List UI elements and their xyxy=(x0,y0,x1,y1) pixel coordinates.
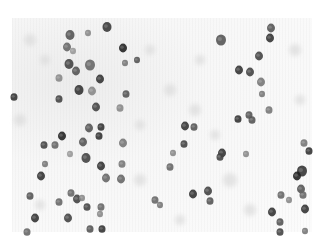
nucleus-highlight xyxy=(86,126,90,129)
nucleus-highlight xyxy=(244,152,247,154)
nucleus-highlight xyxy=(303,229,306,231)
background-specks xyxy=(14,34,305,225)
nucleus-highlight xyxy=(43,162,46,164)
nucleus-highlight xyxy=(67,32,71,36)
background-speck xyxy=(210,130,220,140)
nucleus-highlight xyxy=(80,140,84,143)
nucleus-highlight xyxy=(190,192,194,195)
nucleus-highlight xyxy=(153,198,156,201)
nucleus-highlight xyxy=(250,118,253,121)
nucleus-highlight xyxy=(100,227,103,230)
background-speck xyxy=(195,55,205,65)
nucleus-highlight xyxy=(298,187,302,190)
nucleus-highlight xyxy=(299,168,304,172)
nucleus-highlight xyxy=(218,155,221,158)
nucleus-highlight xyxy=(53,143,56,146)
nucleus-highlight xyxy=(88,227,91,230)
nucleus-highlight xyxy=(256,54,260,57)
nucleus-highlight xyxy=(104,24,108,28)
nucleus-highlight xyxy=(301,193,304,196)
nucleus-highlight xyxy=(269,210,273,213)
nucleus-highlight xyxy=(89,89,93,92)
background-speck xyxy=(14,114,26,126)
nucleus-highlight xyxy=(192,125,195,128)
background-speck xyxy=(189,104,201,116)
nucleus-highlight xyxy=(103,176,107,179)
nucleus-highlight xyxy=(260,92,263,94)
nucleus-highlight xyxy=(279,193,282,196)
background-speck xyxy=(295,95,305,105)
nuclei-layer xyxy=(0,0,323,244)
nucleus-highlight xyxy=(135,58,138,60)
nucleus-highlight xyxy=(307,149,310,152)
nucleus-highlight xyxy=(267,36,271,39)
nucleus-highlight xyxy=(168,165,171,168)
nucleus-highlight xyxy=(85,205,88,208)
nucleus-highlight xyxy=(120,162,123,165)
nucleus-highlight xyxy=(302,141,305,144)
nucleus-highlight xyxy=(87,62,92,66)
nucleus-highlight xyxy=(71,49,74,51)
background-speck xyxy=(223,173,237,187)
nucleus-highlight xyxy=(182,124,186,127)
nucleus-highlight xyxy=(294,174,298,177)
nucleus-highlight xyxy=(25,230,28,233)
background-speck xyxy=(175,215,185,225)
background-speck xyxy=(40,55,50,65)
nucleus-highlight xyxy=(38,174,42,177)
nucleus-highlight xyxy=(247,70,251,73)
nucleus-highlight xyxy=(69,191,72,194)
nucleus-highlight xyxy=(57,76,60,79)
background-speck xyxy=(244,204,256,216)
background-speck xyxy=(135,120,145,130)
nucleus-highlight xyxy=(99,125,102,128)
background-speck xyxy=(289,44,301,56)
nucleus-highlight xyxy=(208,199,211,202)
nucleus-highlight xyxy=(247,113,250,116)
background-speck xyxy=(24,34,36,46)
nucleus-highlight xyxy=(287,198,290,200)
nucleus-highlight xyxy=(64,45,68,48)
nucleus-highlight xyxy=(236,68,240,71)
nucleus-highlight xyxy=(120,46,124,49)
nucleus-highlight xyxy=(182,142,185,145)
nucleus-highlight xyxy=(32,216,36,219)
nucleus-highlight xyxy=(57,97,60,100)
nucleus-highlight xyxy=(205,189,209,192)
nucleus-highlight xyxy=(258,80,262,83)
nucleus-highlight xyxy=(118,106,121,109)
nucleus-highlight xyxy=(74,197,78,200)
nucleus-highlight xyxy=(278,230,281,233)
nucleus-highlight xyxy=(267,108,270,111)
nucleus-highlight xyxy=(42,143,45,146)
background-speck xyxy=(164,84,176,96)
nucleus-highlight xyxy=(80,196,83,198)
nucleus-highlight xyxy=(97,77,101,80)
nucleus-highlight xyxy=(66,61,70,65)
nucleus-highlight xyxy=(268,26,272,29)
nucleus-highlight xyxy=(12,95,15,98)
background-speck xyxy=(134,174,146,186)
nucleus-highlight xyxy=(68,152,71,154)
nucleus-highlight xyxy=(93,105,97,108)
nucleus-highlight xyxy=(118,177,122,180)
nucleus-highlight xyxy=(236,117,239,120)
nucleus-highlight xyxy=(302,207,306,210)
nucleus-highlight xyxy=(158,203,161,205)
nucleus-highlight xyxy=(28,194,31,197)
nucleus-highlight xyxy=(171,151,174,153)
nucleus-highlight xyxy=(59,134,63,137)
nucleus-highlight xyxy=(83,155,87,159)
nucleus-highlight xyxy=(76,87,80,91)
nucleus-highlight xyxy=(98,164,102,167)
nucleus-highlight xyxy=(73,69,77,72)
nucleus-highlight xyxy=(278,220,281,223)
nucleus-highlight xyxy=(218,37,223,41)
nucleus-highlight xyxy=(86,31,89,33)
cell-nuclei xyxy=(11,22,313,236)
nucleus-highlight xyxy=(123,61,126,63)
nucleus-highlight xyxy=(57,200,60,203)
nucleus-highlight xyxy=(124,92,127,95)
nucleus-highlight xyxy=(120,141,124,144)
background-speck xyxy=(35,200,45,210)
